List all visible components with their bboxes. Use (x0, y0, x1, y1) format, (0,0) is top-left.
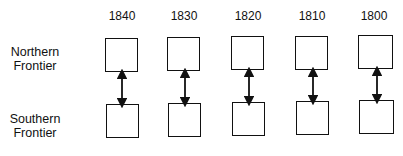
connector-arrows (0, 0, 403, 156)
